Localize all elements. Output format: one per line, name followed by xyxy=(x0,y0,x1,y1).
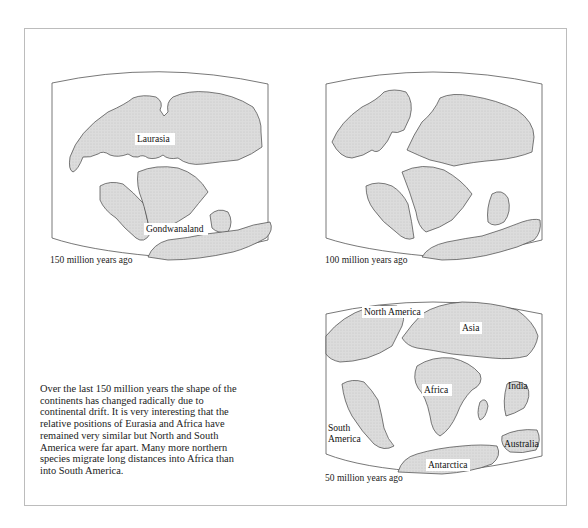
madagascar-shape xyxy=(478,400,488,420)
paragraph-line: relative positions of Eurasia and Africa… xyxy=(40,418,290,430)
eurasia-shape xyxy=(407,94,534,166)
label-australia: Australia xyxy=(504,439,540,449)
map-100-graphic xyxy=(322,62,552,262)
paragraph-line: Over the last 150 million years the shap… xyxy=(40,383,290,395)
map-50-graphic: North America Asia Africa India South Am… xyxy=(322,296,552,476)
paragraph-line: species migrate long distances into Afri… xyxy=(40,453,290,465)
label-south: South xyxy=(328,423,350,433)
paragraph-line: continental drift. It is very interestin… xyxy=(40,406,290,418)
label-india: India xyxy=(508,381,528,391)
description-paragraph: Over the last 150 million years the shap… xyxy=(40,383,290,477)
map-100-million-years xyxy=(322,62,552,262)
north-america-shape xyxy=(332,90,411,158)
caption-150: 150 million years ago xyxy=(50,255,133,265)
label-antarctica: Antarctica xyxy=(428,460,468,470)
paragraph-line: continents has changed radically due to xyxy=(40,395,290,407)
caption-100: 100 million years ago xyxy=(325,255,408,265)
label-gondwanaland: Gondwanaland xyxy=(146,224,204,234)
india-shape xyxy=(210,210,231,232)
south-america-shape xyxy=(366,183,414,239)
paragraph-line: America were far apart. Many more northe… xyxy=(40,442,290,454)
label-africa: Africa xyxy=(424,385,449,395)
caption-50: 50 million years ago xyxy=(325,473,403,483)
paragraph-line: into South America. xyxy=(40,465,290,477)
label-north-america: North America xyxy=(364,307,422,317)
label-america: America xyxy=(328,434,361,444)
paragraph-line: remained very similar but North and Sout… xyxy=(40,430,290,442)
africa-shape xyxy=(415,358,481,436)
africa-shape xyxy=(402,166,472,232)
africa-shape xyxy=(138,167,209,232)
map-50-million-years: North America Asia Africa India South Am… xyxy=(322,296,552,476)
map-150-graphic: Laurasia Gondwanaland xyxy=(48,62,278,262)
label-laurasia: Laurasia xyxy=(137,134,170,144)
map-150-million-years: Laurasia Gondwanaland xyxy=(48,62,278,262)
india-shape xyxy=(488,192,510,225)
label-asia: Asia xyxy=(462,323,480,333)
laurasia-shape xyxy=(69,92,262,172)
